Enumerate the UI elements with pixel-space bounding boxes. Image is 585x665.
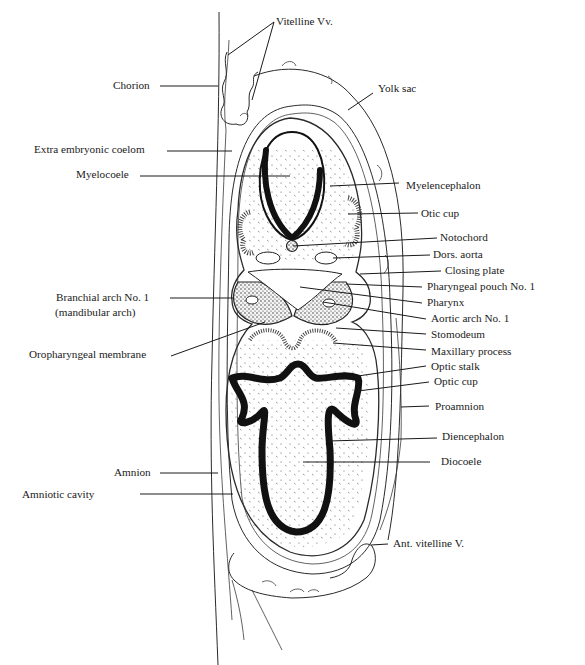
label-stomodeum: Stomodeum (336, 328, 485, 340)
leader-line (228, 22, 274, 55)
leader-line (360, 271, 441, 274)
label-vitelline-vv: Vitelline Vv. (228, 15, 333, 100)
label-text: Branchial arch No. 1 (56, 291, 149, 303)
label-text: Diencephalon (442, 430, 505, 442)
label-text: Pharyngeal pouch No. 1 (427, 280, 535, 292)
label-text: Chorion (113, 79, 150, 91)
label-text: Optic cup (434, 375, 478, 387)
label-text: Otic cup (421, 207, 460, 219)
label-closing-plate: Closing plate (360, 264, 504, 276)
label-text: Myelencephalon (406, 179, 481, 191)
label-text: Amniotic cavity (22, 488, 95, 500)
label-oropharyngeal-membrane: Oropharyngeal membrane (29, 322, 265, 360)
ant-vitelline-vein-structure (229, 544, 376, 650)
label-text: Aortic arch No. 1 (431, 312, 509, 324)
label-text: Dors. aorta (433, 248, 483, 260)
label-text: Stomodeum (431, 328, 485, 340)
label-text: Optic stalk (431, 360, 480, 372)
label-optic-cup: Optic cup (358, 375, 478, 391)
label-otic-cup: Otic cup (348, 207, 460, 219)
label-chorion: Chorion (113, 79, 218, 91)
label-pharyngeal-pouch-no-1: Pharyngeal pouch No. 1 (346, 280, 535, 292)
label-text: Myelocoele (76, 168, 129, 180)
leader-line (346, 284, 422, 287)
label-text: Ant. vitelline V. (393, 537, 464, 549)
label-text: Yolk sac (378, 82, 416, 94)
label-branchial-arch-no-1: Branchial arch No. 1 (56, 291, 233, 303)
label-dors-aorta: Dors. aorta (333, 248, 483, 260)
label-ant-vitelline-v: Ant. vitelline V. (371, 537, 464, 549)
embryo-section-diagram: Vitelline Vv.ChorionYolk sacExtra embryo… (0, 0, 585, 665)
diagram-canvas: Vitelline Vv.ChorionYolk sacExtra embryo… (0, 0, 585, 665)
label-amniotic-cavity: Amniotic cavity (22, 488, 233, 500)
label-text: Closing plate (445, 264, 504, 276)
label-text: Diocoele (441, 455, 481, 467)
label-text: Maxillary process (431, 345, 511, 357)
label-mandibular-arch: (mandibular arch) (55, 306, 136, 319)
label-extra-embryonic-coelom: Extra embryonic coelom (34, 143, 232, 155)
label-yolk-sac: Yolk sac (348, 82, 416, 110)
label-amnion: Amnion (114, 466, 218, 478)
label-text: Extra embryonic coelom (34, 143, 145, 155)
label-text: Vitelline Vv. (276, 15, 333, 27)
label-text: Pharynx (427, 296, 465, 308)
dorsal-aorta-left (256, 252, 280, 264)
leader-line (252, 22, 274, 100)
label-text: Notochord (440, 231, 488, 243)
label-proamnion: Proamnion (401, 400, 485, 412)
leader-line (348, 213, 418, 214)
label-myelencephalon: Myelencephalon (330, 179, 481, 191)
label-text: Oropharyngeal membrane (29, 348, 146, 360)
leader-line (336, 328, 426, 334)
leader-line (371, 544, 388, 545)
vitelline-veins-structure (221, 52, 258, 125)
label-text: (mandibular arch) (55, 306, 136, 319)
leader-line (401, 406, 429, 407)
label-text: Amnion (114, 466, 151, 478)
label-text: Proamnion (435, 400, 485, 412)
